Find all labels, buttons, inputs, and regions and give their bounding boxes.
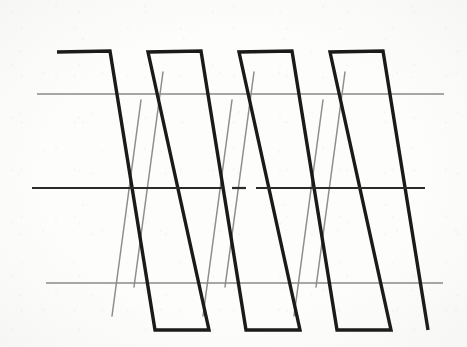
figure-canvas: [0, 0, 467, 347]
primary-sawtooth-trace: [57, 51, 428, 330]
waveform-plot: [0, 0, 467, 347]
sawtooth-path: [57, 51, 428, 330]
